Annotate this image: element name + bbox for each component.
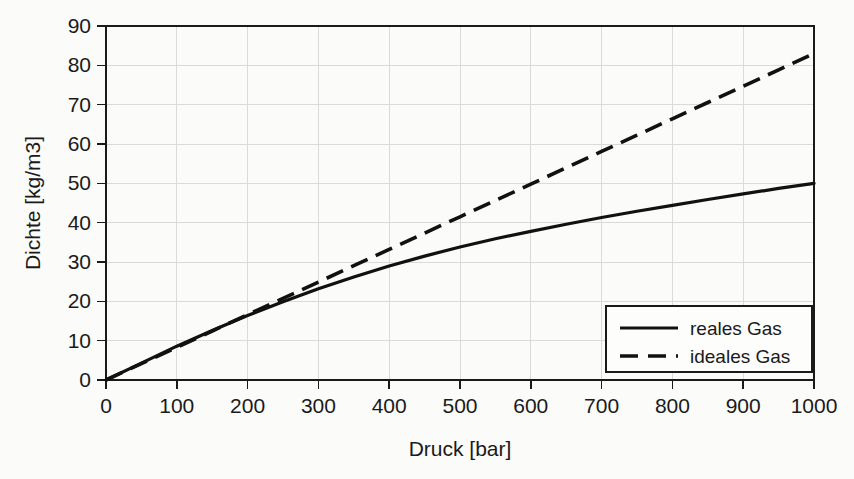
y-tick-label: 10 [68,329,91,352]
y-tick-label: 70 [68,93,91,116]
x-axis-title: Druck [bar] [409,437,512,460]
y-tick-label: 20 [68,289,91,312]
y-tick-label: 80 [68,53,91,76]
x-tick-label: 400 [372,394,407,417]
y-axis-title: Dichte [kg/m3] [21,136,44,270]
y-tick-label: 0 [79,368,91,391]
x-tick-label: 800 [655,394,690,417]
density-pressure-chart: 0102030405060708090 01002003004005006007… [0,0,854,479]
x-tick-label: 1000 [791,394,838,417]
x-tick-label: 100 [159,394,194,417]
chart-legend: reales Gas ideales Gas [606,306,812,372]
legend-label-reales-gas: reales Gas [690,318,782,339]
y-tick-label: 50 [68,171,91,194]
y-tick-label: 30 [68,250,91,273]
x-tick-label: 200 [230,394,265,417]
chart-page: 0102030405060708090 01002003004005006007… [0,0,854,479]
y-tick-label: 60 [68,132,91,155]
y-tick-label: 90 [68,14,91,37]
x-tick-label: 300 [301,394,336,417]
legend-label-ideales-gas: ideales Gas [690,346,790,367]
x-tick-label: 600 [513,394,548,417]
y-tick-label: 40 [68,211,91,234]
x-tick-label: 700 [584,394,619,417]
x-tick-label: 900 [726,394,761,417]
x-tick-label: 0 [100,394,112,417]
x-tick-label: 500 [442,394,477,417]
